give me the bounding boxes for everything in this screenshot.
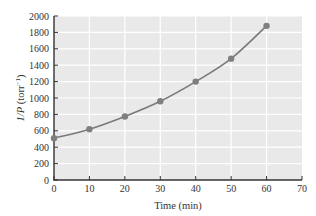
y-tick-label: 400 <box>34 142 49 153</box>
x-tick-label: 30 <box>155 183 165 194</box>
y-axis-label-unit: (torr <box>15 85 27 107</box>
y-tick-label: 1600 <box>29 43 49 54</box>
y-tick-label: 800 <box>34 109 49 120</box>
x-tick-label: 50 <box>226 183 236 194</box>
data-point-marker <box>122 113 128 119</box>
data-point-marker <box>86 126 92 132</box>
data-point-marker <box>193 78 199 84</box>
y-axis-label-close: ) <box>15 74 27 78</box>
x-tick-label: 10 <box>84 183 94 194</box>
y-axis-label-italic: 1/P <box>15 106 26 121</box>
data-point-marker <box>157 98 163 104</box>
x-axis-label: Time (min) <box>154 200 202 212</box>
y-tick-label: 200 <box>34 158 49 169</box>
x-tick-label: 60 <box>262 183 272 194</box>
x-tick-label: 20 <box>120 183 130 194</box>
y-tick-label: 1800 <box>29 27 49 38</box>
y-tick-label: 0 <box>44 175 49 186</box>
y-tick-label: 2000 <box>29 11 49 22</box>
x-tick-label: 40 <box>191 183 201 194</box>
y-tick-label: 1200 <box>29 76 49 87</box>
x-tick-label: 0 <box>52 183 57 194</box>
data-point-marker <box>228 55 234 61</box>
chart: 0200400600800100012001400160018002000 01… <box>0 0 316 216</box>
y-axis-label: 1/P (torr−1) <box>14 74 27 121</box>
y-tick-label: 600 <box>34 125 49 136</box>
data-point-marker <box>263 23 269 29</box>
y-tick-label: 1400 <box>29 60 49 71</box>
x-tick-label: 70 <box>297 183 307 194</box>
data-point-marker <box>51 135 57 141</box>
y-tick-label: 1000 <box>29 93 49 104</box>
